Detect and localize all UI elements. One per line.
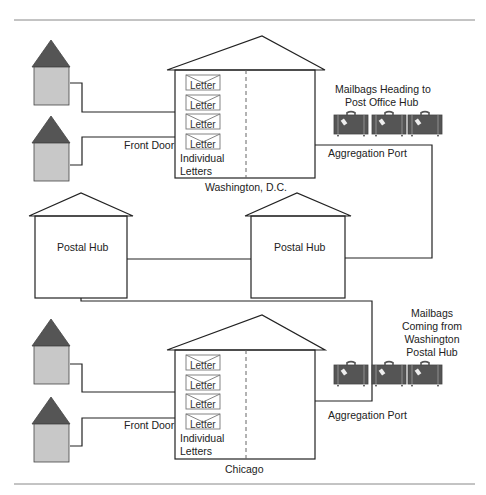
mailbag-icon: [408, 112, 442, 137]
postal-network-diagram: Letter Letter Letter Letter Front Door I…: [0, 0, 486, 495]
aggregation-port-label: Aggregation Port: [328, 147, 407, 159]
mailbag-icon: [372, 112, 406, 137]
individual-letters-label: Individual: [180, 432, 224, 444]
letter-label: Letter: [190, 100, 216, 111]
front-door-label: Front Door: [124, 139, 175, 151]
mailbag-icon: [372, 362, 406, 387]
city-label-washington: Washington, D.C.: [205, 181, 287, 193]
mailbag-icon: [334, 362, 368, 387]
letter-label: Letter: [190, 419, 216, 430]
mailbags-coming-label: Mailbags: [411, 307, 453, 319]
aggregation-port-label: Aggregation Port: [328, 409, 407, 421]
mailbag-icon: [408, 362, 442, 387]
postal-hub-label: Postal Hub: [57, 241, 109, 253]
mailbags-coming-label: Washington: [404, 333, 459, 345]
mailbag-icon: [334, 112, 368, 137]
individual-letters-label: Letters: [180, 165, 212, 177]
mailbags-heading-label: Post Office Hub: [345, 96, 419, 108]
individual-letters-label: Individual: [180, 152, 224, 164]
mailbags-heading-label: Mailbags Heading to: [335, 83, 431, 95]
letter-label: Letter: [190, 380, 216, 391]
front-door-label: Front Door: [124, 419, 175, 431]
postal-hub-label: Postal Hub: [274, 241, 326, 253]
house-icon: [32, 397, 70, 462]
letter-label: Letter: [190, 119, 216, 130]
aggregation-link: [315, 145, 432, 258]
individual-letters-label: Letters: [180, 445, 212, 457]
house-icon: [32, 116, 70, 181]
letter-label: Letter: [190, 80, 216, 91]
house-icon: [32, 319, 70, 384]
mailbags-coming-label: Coming from: [402, 320, 462, 332]
mailbags-coming-label: Postal Hub: [406, 346, 458, 358]
letter-label: Letter: [190, 399, 216, 410]
house-icon: [32, 40, 70, 105]
connection-line: [70, 364, 175, 392]
connection-line: [70, 83, 175, 112]
letter-label: Letter: [190, 139, 216, 150]
letter-label: Letter: [190, 360, 216, 371]
city-label-chicago: Chicago: [225, 463, 264, 475]
